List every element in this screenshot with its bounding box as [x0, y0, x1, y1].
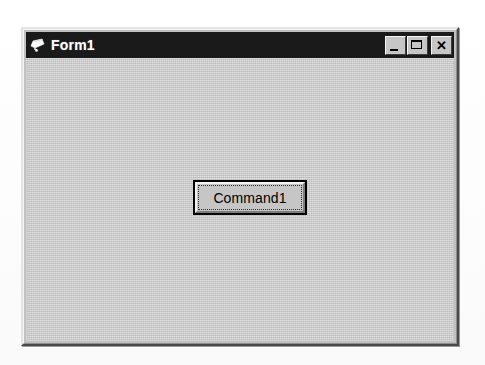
- command1-button[interactable]: Command1: [193, 180, 307, 215]
- button-focus-rect: Command1: [198, 185, 302, 210]
- window-controls: ✕: [385, 36, 452, 55]
- command1-button-label: Command1: [213, 190, 286, 206]
- close-button[interactable]: ✕: [431, 36, 452, 55]
- close-icon: ✕: [432, 37, 451, 54]
- maximize-icon: [411, 40, 422, 49]
- window-title: Form1: [51, 37, 95, 53]
- minimize-icon: [390, 49, 398, 51]
- titlebar[interactable]: Form1 ✕: [26, 32, 454, 58]
- form-client-area: Command1: [26, 58, 454, 341]
- window-inner-frame: Form1 ✕ Command1: [23, 29, 457, 344]
- maximize-button[interactable]: [407, 36, 428, 55]
- vb-form-icon: [30, 37, 47, 53]
- form1-window: Form1 ✕ Command1: [21, 27, 459, 346]
- minimize-button[interactable]: [385, 36, 406, 55]
